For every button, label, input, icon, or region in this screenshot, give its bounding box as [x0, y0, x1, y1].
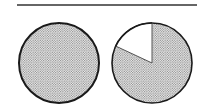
circle-with-wedge [112, 23, 192, 103]
full-circle [19, 23, 99, 103]
pie-diagram [0, 0, 197, 111]
